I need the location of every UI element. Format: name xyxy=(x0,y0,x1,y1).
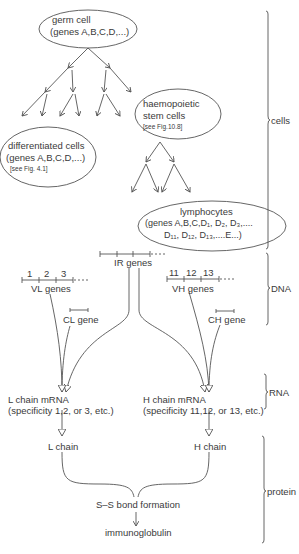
differentiated-cells-ref: [see Fig. 4.1] xyxy=(10,165,48,173)
bond-formation-label: S–S bond formation xyxy=(96,499,180,510)
haemopoietic-title-line2: stem cells xyxy=(143,110,185,121)
differentiated-cells-genes: (genes A,B,C,D,...) xyxy=(6,152,85,163)
vh-number-13: 13 xyxy=(203,267,214,278)
protein-bracket xyxy=(262,436,266,543)
dna-bracket-label: DNA xyxy=(271,283,291,294)
h-chain-mrna-specificity: (specificity 11,12, or 13, etc.) xyxy=(143,405,264,416)
lymphocytes-title: lymphocytes xyxy=(180,206,233,217)
h-chain-label: H chain xyxy=(194,441,226,452)
l-chain-label: L chain xyxy=(48,441,78,452)
h-chain-mrna-title: H chain mRNA xyxy=(143,394,206,405)
vl-number-2: 2 xyxy=(44,268,49,279)
ir-genes-label: IR genes xyxy=(114,257,152,268)
vl-genes-label: VL genes xyxy=(31,283,71,294)
vh-number-12: 12 xyxy=(186,267,197,278)
haemopoietic-title-line1: haemopoietic xyxy=(143,98,200,109)
ch-gene-label: CH gene xyxy=(208,314,246,325)
l-chain-mrna-specificity: (specificity 1,2, or 3, etc.) xyxy=(8,405,114,416)
germ-cell-title: germ cell xyxy=(52,14,91,25)
vl-number-1: 1 xyxy=(27,268,32,279)
vh-number-11: 11 xyxy=(169,267,179,278)
vl-number-3: 3 xyxy=(61,268,66,279)
cells-bracket xyxy=(266,11,270,249)
lymphocytes-genes-line2: D₁₁, D₁₂, D₁₃,....E...) xyxy=(164,230,242,241)
cl-gene-label: CL gene xyxy=(63,314,99,325)
protein-bracket-label: protein xyxy=(267,486,296,497)
cells-bracket-label: cells xyxy=(271,115,290,126)
dna-bracket xyxy=(266,253,270,325)
lymphocytes-genes-line1: (genes A,B,C,D₁, D₂, D₃,.... xyxy=(145,218,253,229)
vh-genes-label: VH genes xyxy=(172,283,214,294)
germ-cell-genes: (genes A,B,C,D,...) xyxy=(50,26,129,37)
l-chain-mrna-title: L chain mRNA xyxy=(8,394,69,405)
immunoglobulin-label: immunoglobulin xyxy=(105,527,172,538)
rna-bracket xyxy=(264,374,268,409)
differentiated-cells-title: differentiated cells xyxy=(8,140,84,151)
rna-bracket-label: RNA xyxy=(269,387,289,398)
haemopoietic-ref: [see Fig.10.8] xyxy=(143,123,182,131)
